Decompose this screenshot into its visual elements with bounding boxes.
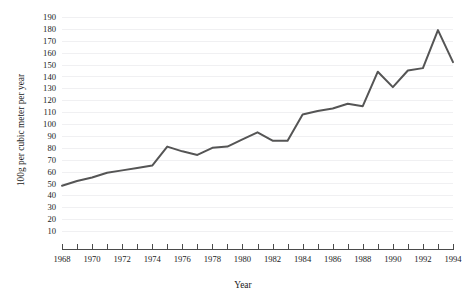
x-axis-tick-label: 1978 xyxy=(204,254,221,264)
chart-canvas: 1020304050607080901001101201301401501601… xyxy=(0,0,476,302)
y-axis-tick-label: 190 xyxy=(43,12,56,22)
x-axis-tick-label: 1990 xyxy=(384,254,401,264)
gridlines xyxy=(62,18,453,232)
y-axis-title: 100g per cubic meter per year xyxy=(16,73,26,186)
y-axis-tick-label: 110 xyxy=(43,107,56,117)
y-axis-tick-label: 60 xyxy=(47,167,56,177)
y-axis-tick-label: 120 xyxy=(43,95,56,105)
x-axis-tick-label: 1980 xyxy=(234,254,251,264)
y-axis-tick-label: 20 xyxy=(47,214,56,224)
x-axis-tick-label: 1970 xyxy=(83,254,100,264)
y-axis-tick-label: 70 xyxy=(47,155,56,165)
y-axis-tick-label: 50 xyxy=(47,179,56,189)
y-axis-tick-label: 40 xyxy=(47,190,56,200)
x-axis-ticks: 1968197019721974197619781980198219841986… xyxy=(53,244,462,265)
y-axis-tick-label: 100 xyxy=(43,119,56,129)
y-axis-tick-label: 130 xyxy=(43,83,56,93)
x-axis-tick-label: 1972 xyxy=(114,254,131,264)
y-axis-tick-label: 90 xyxy=(47,131,56,141)
x-axis-tick-label: 1986 xyxy=(324,254,342,264)
y-axis-tick-label: 30 xyxy=(47,202,56,212)
y-axis-tick-label: 140 xyxy=(43,72,56,82)
y-axis-tick-label: 150 xyxy=(43,60,56,70)
x-axis-tick-label: 1988 xyxy=(354,254,371,264)
y-axis-tick-label: 170 xyxy=(43,36,56,46)
x-axis-tick-label: 1976 xyxy=(174,254,192,264)
x-axis-tick-label: 1974 xyxy=(144,254,162,264)
y-axis-tick-label: 80 xyxy=(47,143,56,153)
y-axis-tick-label: 160 xyxy=(43,48,56,58)
x-axis-tick-label: 1984 xyxy=(294,254,312,264)
y-axis-tick-label: 180 xyxy=(43,24,56,34)
x-axis-tick-label: 1994 xyxy=(444,254,462,264)
y-axis-tick-label: 10 xyxy=(47,226,56,236)
y-axis-ticks: 1020304050607080901001101201301401501601… xyxy=(43,12,56,236)
x-axis-tick-label: 1982 xyxy=(264,254,281,264)
line-chart: 1020304050607080901001101201301401501601… xyxy=(0,0,476,302)
x-axis-tick-label: 1968 xyxy=(53,254,70,264)
x-axis-title: Year xyxy=(234,280,252,290)
x-axis-tick-label: 1992 xyxy=(414,254,431,264)
